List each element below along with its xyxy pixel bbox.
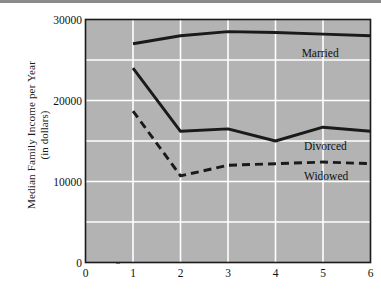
chart-figure: Median Family Income per Year (in dollar… [0, 0, 381, 291]
series-label-divorced: Divorced [304, 140, 347, 152]
series-label-married: Married [302, 47, 339, 59]
series-label-widowed: Widowed [304, 170, 348, 182]
